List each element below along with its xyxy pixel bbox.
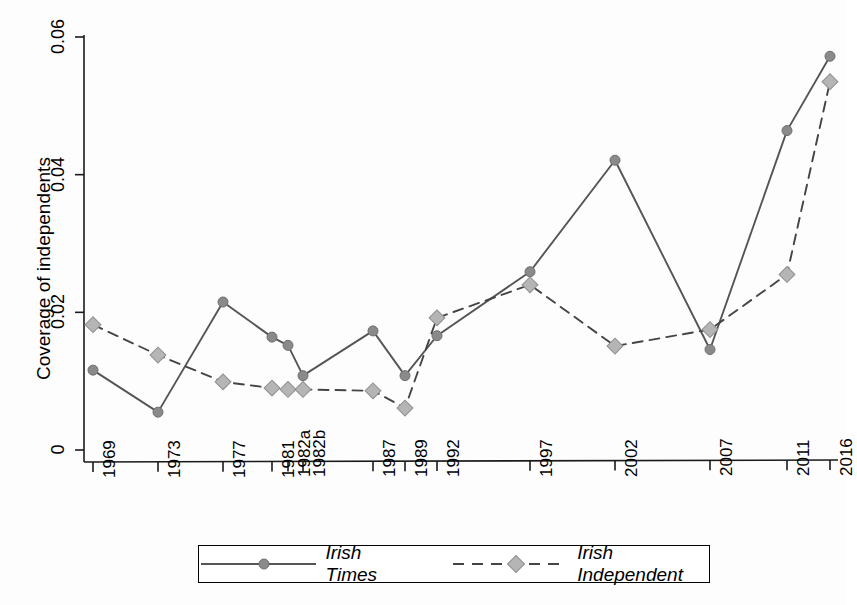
- series-irish-times: [88, 51, 835, 417]
- series-irish-independent: [85, 74, 838, 416]
- y-axis-ticks: [75, 37, 84, 450]
- legend-label-irish-times: Irish Times: [326, 542, 409, 586]
- x-tick-label: 1987: [380, 439, 400, 477]
- legend-label-irish-independent: Irish Independent: [577, 542, 709, 586]
- legend-swatch-solid-circle: [199, 554, 316, 574]
- x-tick-label: 2002: [622, 439, 642, 477]
- y-tick-label: 0: [48, 420, 69, 480]
- chart-legend: Irish Times Irish Independent: [198, 545, 710, 583]
- axis-lines: [84, 35, 838, 462]
- x-tick-label: 1977: [230, 440, 250, 478]
- legend-entry-irish-independent: Irish Independent: [451, 542, 709, 586]
- x-tick-label: 1992: [444, 439, 464, 477]
- x-tick-label: 1982b: [310, 430, 330, 477]
- legend-entry-irish-times: Irish Times: [199, 542, 409, 586]
- x-tick-label: 2007: [717, 439, 737, 477]
- x-tick-label: 1969: [100, 440, 120, 478]
- x-tick-label: 2016: [837, 438, 857, 476]
- legend-swatch-dashed-diamond: [451, 554, 568, 574]
- x-tick-label: 2011: [794, 440, 814, 477]
- y-tick-label: 0.06: [48, 7, 69, 67]
- x-tick-label: 1997: [537, 439, 557, 477]
- x-tick-label: 1989: [412, 439, 432, 477]
- x-tick-label: 1973: [165, 440, 185, 478]
- y-tick-label: 0.02: [48, 282, 69, 342]
- y-tick-label: 0.04: [48, 144, 69, 204]
